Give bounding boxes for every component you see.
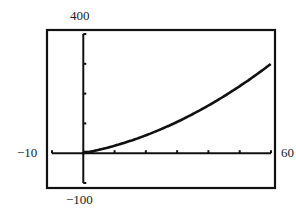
plotted-curve — [83, 65, 269, 153]
graph-screen — [0, 0, 296, 208]
axes — [52, 34, 271, 183]
axis-ticks — [52, 34, 271, 183]
screen-frame — [47, 30, 275, 188]
curve-line — [83, 65, 269, 153]
